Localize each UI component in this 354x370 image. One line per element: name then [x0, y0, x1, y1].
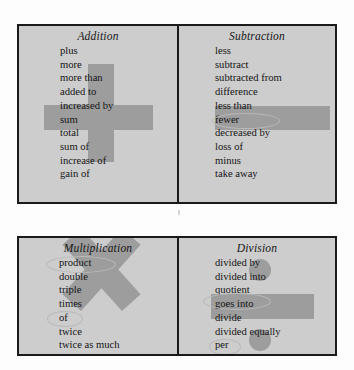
list-item: decreased by	[215, 126, 335, 140]
list-item: total	[60, 126, 177, 140]
list-item: plus	[60, 44, 177, 58]
list-item: less	[215, 44, 335, 58]
word-list-division: divided by divided into quotient goes in…	[179, 256, 335, 352]
word-list-subtraction: less subtract subtracted from difference…	[179, 44, 335, 181]
panel-title-division: Division	[179, 238, 335, 256]
list-item: product	[59, 256, 177, 270]
list-item: sum of	[60, 140, 177, 154]
list-item: quotient	[215, 283, 335, 297]
list-item: take away	[215, 167, 335, 181]
panel-title-subtraction: Subtraction	[179, 26, 335, 44]
list-item: divided into	[215, 270, 335, 284]
list-item: fewer	[215, 113, 335, 127]
list-item: increased by	[60, 99, 177, 113]
list-item: times	[59, 297, 177, 311]
panel-addition: Addition plus more more than added to in…	[19, 26, 177, 202]
list-item: added to	[60, 85, 177, 99]
panel-multiplication: Multiplication product double triple tim…	[19, 238, 177, 354]
panel-title-multiplication: Multiplication	[19, 238, 177, 256]
list-item: more	[60, 58, 177, 72]
list-item: twice as much	[59, 338, 177, 352]
list-item: double	[59, 270, 177, 284]
list-item: subtract	[215, 58, 335, 72]
word-list-addition: plus more more than added to increased b…	[19, 44, 177, 181]
list-item: increase of	[60, 154, 177, 168]
list-item: of	[59, 311, 177, 325]
list-item: divided by	[215, 256, 335, 270]
operations-table-top: Addition plus more more than added to in…	[17, 24, 337, 204]
operations-table-bottom: Multiplication product double triple tim…	[17, 236, 337, 356]
list-item: subtracted from	[215, 71, 335, 85]
list-item: more than	[60, 71, 177, 85]
worksheet-page: Addition plus more more than added to in…	[0, 0, 354, 370]
list-item: per	[215, 338, 335, 352]
panel-title-addition: Addition	[19, 26, 177, 44]
list-item: twice	[59, 325, 177, 339]
list-item: divided equally	[215, 325, 335, 339]
scan-artifact-speck	[178, 210, 180, 215]
list-item: divide	[215, 311, 335, 325]
list-item: sum	[60, 113, 177, 127]
panel-subtraction: Subtraction less subtract subtracted fro…	[177, 26, 335, 202]
list-item: gain of	[60, 167, 177, 181]
list-item: less than	[215, 99, 335, 113]
list-item: goes into	[215, 297, 335, 311]
list-item: difference	[215, 85, 335, 99]
list-item: triple	[59, 283, 177, 297]
list-item: loss of	[215, 140, 335, 154]
panel-division: Division divided by divided into quotien…	[177, 238, 335, 354]
list-item: minus	[215, 154, 335, 168]
word-list-multiplication: product double triple times of twice twi…	[19, 256, 177, 352]
